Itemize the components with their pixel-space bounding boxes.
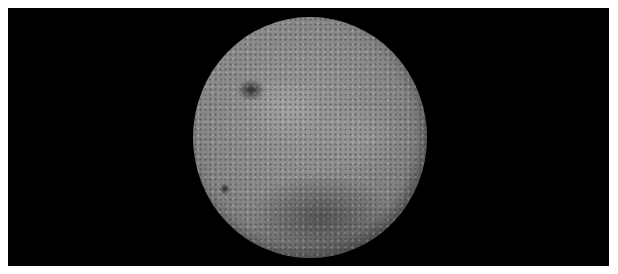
moon-crater-texture: [193, 17, 427, 258]
moon: [193, 17, 427, 258]
space-background: [8, 8, 609, 266]
